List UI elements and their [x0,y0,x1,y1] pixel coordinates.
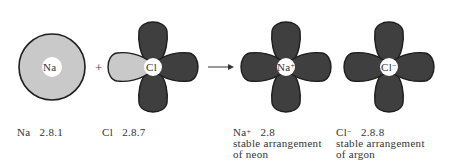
na-configuration: Na 2.8.1 [17,127,63,138]
ionic-bond-diagram: + [0,0,452,120]
na-ion-core-label: Na+ [277,61,295,73]
reaction-arrow [208,64,234,70]
na-core-label: Na [43,61,56,73]
cl-ion-caption: Cl− 2.8.8 stable arrangement of argon [336,127,425,160]
cl-ion-core-label: Cl− [381,61,397,73]
cl-core-label: Cl [146,61,157,73]
na-ion-caption: Na+ 2.8 stable arrangement of neon [233,127,322,160]
cl-ion-note-line2: of argon [336,149,425,160]
plus-sign: + [95,60,102,75]
na-ion-note-line2: of neon [233,149,322,160]
cl-configuration: Cl 2.8.7 [102,127,146,138]
